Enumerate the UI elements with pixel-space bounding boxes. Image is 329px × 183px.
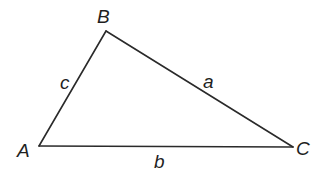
vertex-a-label: A bbox=[16, 140, 30, 161]
side-b-label: b bbox=[154, 151, 165, 172]
side-c-label: c bbox=[60, 72, 70, 93]
side-b-line bbox=[39, 146, 293, 147]
vertex-b-label: B bbox=[97, 6, 110, 27]
vertex-c-label: C bbox=[296, 138, 310, 159]
triangle-diagram: B A C c a b bbox=[0, 0, 329, 183]
side-a-line bbox=[106, 31, 293, 147]
side-a-label: a bbox=[203, 71, 214, 92]
side-c-line bbox=[39, 31, 106, 146]
